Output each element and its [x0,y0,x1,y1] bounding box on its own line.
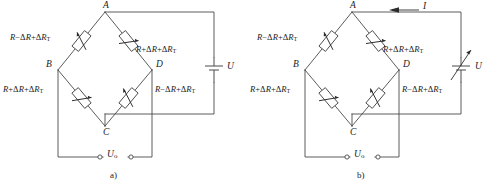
source-label-u: U [227,62,234,72]
panel-a: A B D C R−ΔR+ΔRT R+ΔR+ΔRT R+ΔR+ΔRT R−ΔR+… [0,0,247,189]
bridge-diamond [305,12,399,126]
node-label-b-left: B [46,60,52,70]
output-terminal-right[interactable] [129,155,133,159]
node-label-d-right: D [403,60,410,70]
output-terminal-right[interactable] [376,155,380,159]
output-label-uo: Uo [354,150,364,160]
resistor-bottom-right [114,84,141,112]
panel-b-circuit [247,0,494,189]
output-loop-wires [305,70,399,157]
resistor-label-bottom-right: R−ΔR+ΔRT [155,85,195,94]
resistor-label-top-right: R+ΔR+ΔRT [383,45,423,54]
resistor-top-left [315,28,342,55]
output-terminal-left[interactable] [98,155,102,159]
resistor-bottom-left [315,85,341,111]
resistor-bottom-left [68,85,94,111]
output-loop-wires [58,70,152,157]
node-label-a-top: A [103,1,109,11]
node-label-b-left: B [293,60,299,70]
node-label-c-bottom: C [103,128,109,138]
bridge-diamond [58,12,152,126]
figure-root: A B D C R−ΔR+ΔRT R+ΔR+ΔRT R+ΔR+ΔRT R−ΔR+… [0,0,494,189]
panel-caption-a: a) [110,171,117,180]
resistor-label-bottom-right: R−ΔR+ΔRT [402,85,442,94]
resistor-top-left [68,28,95,55]
current-label-i: I [423,2,426,12]
source-label-u: U [475,62,482,72]
resistor-label-bottom-left: R+ΔR+ΔRT [250,85,290,94]
resistor-label-bottom-left: R+ΔR+ΔRT [3,85,43,94]
resistor-label-top-left: R−ΔR+ΔRT [10,33,50,42]
node-label-c-bottom: C [350,128,356,138]
output-terminal-left[interactable] [345,155,349,159]
panel-caption-b: b) [357,171,365,180]
panel-a-circuit [0,0,247,189]
resistor-label-top-left: R−ΔR+ΔRT [257,33,297,42]
panel-b: A B D C R−ΔR+ΔRT R+ΔR+ΔRT R+ΔR+ΔRT R−ΔR+… [247,0,494,189]
resistor-bottom-right [361,84,388,112]
resistor-label-top-right: R+ΔR+ΔRT [136,45,176,54]
voltage-source-symbol [205,57,223,83]
node-label-a-top: A [350,1,356,11]
node-label-d-right: D [156,60,163,70]
output-label-uo: Uo [107,150,117,160]
